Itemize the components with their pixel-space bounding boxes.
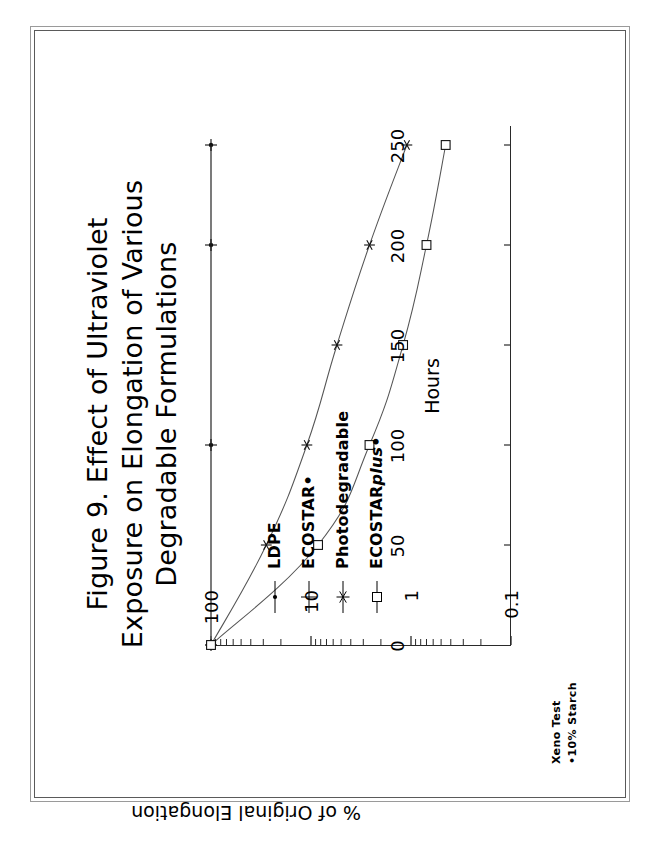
xtick-50: 50: [387, 535, 408, 558]
datapoint-ecostar-100: [205, 439, 217, 451]
legend-label-photodegradable: Photodegradable: [333, 411, 352, 569]
ytick-1: 1: [401, 590, 422, 601]
datapoint-ecostar-250: [205, 139, 217, 151]
ytick-100: 100: [201, 590, 222, 624]
xtick-0: 0: [387, 640, 408, 651]
legend: LDPE ECOSTAR•: [265, 411, 386, 614]
figure-footnote: Xeno Test •10% Starch: [549, 682, 581, 764]
x-axis-title: Hours: [421, 126, 443, 646]
y-axis-title: % of Original Elongation: [131, 802, 361, 824]
legend-label-ecostarplus-italic: plus: [367, 447, 386, 486]
rotated-figure-container: Figure 9. Effect of Ultraviolet Exposure…: [38, 38, 620, 790]
plus-marker-icon: [301, 580, 317, 614]
figure-stage: Figure 9. Effect of Ultraviolet Exposure…: [79, 64, 579, 764]
legend-item-photodegradable[interactable]: Photodegradable: [333, 411, 352, 614]
ytick-0.1: 0.1: [501, 590, 522, 619]
legend-item-ldpe[interactable]: LDPE: [265, 411, 284, 614]
legend-label-ldpe: LDPE: [265, 522, 284, 569]
legend-label-ecostarplus-post: •: [367, 436, 386, 446]
legend-label-ecostar: ECOSTAR•: [299, 475, 318, 569]
legend-label-ecostarplus-pre: ECOSTAR: [367, 485, 386, 569]
xtick-150: 150: [387, 329, 408, 363]
legend-label-ecostarplus: ECOSTARplus•: [367, 436, 386, 569]
datapoint-ecostarplus-0: [207, 641, 216, 650]
scanned-page: Figure 9. Effect of Ultraviolet Exposure…: [0, 0, 661, 860]
xtick-100: 100: [387, 429, 408, 463]
xtick-200: 200: [387, 229, 408, 263]
figure-title: Figure 9. Effect of Ultraviolet Exposure…: [81, 64, 185, 764]
asterisk-marker-icon: [335, 580, 351, 614]
datapoint-photodegradable-200: [364, 240, 375, 249]
legend-item-ecostarplus[interactable]: ECOSTARplus•: [367, 411, 386, 614]
square-marker-icon: [369, 580, 385, 614]
datapoint-photodegradable-150: [332, 340, 343, 349]
legend-item-ecostar[interactable]: ECOSTAR•: [299, 411, 318, 614]
dot-marker-icon: [267, 580, 283, 614]
datapoint-ecostar-200: [205, 239, 217, 251]
xtick-250: 250: [387, 129, 408, 163]
